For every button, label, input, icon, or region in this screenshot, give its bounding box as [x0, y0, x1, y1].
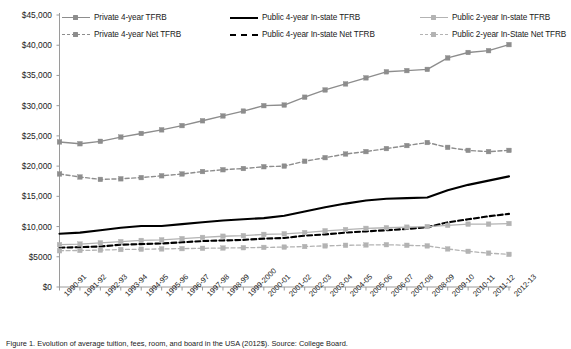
x-axis-tick-label: 2012-13 [512, 272, 538, 298]
figure-caption: Figure 1. Evolution of average tuition, … [6, 339, 512, 348]
